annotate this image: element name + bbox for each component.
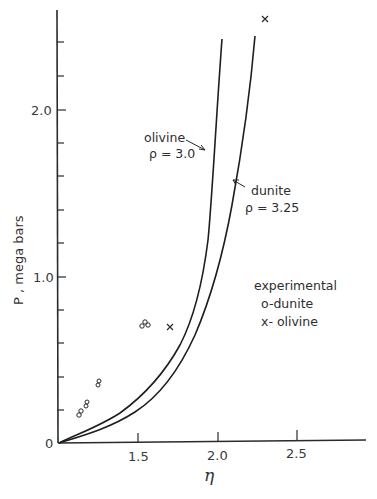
pressure-vs-compression-chart: 0 1.0 2.0 1.5 2.0 2.5 P , mega bars η ol… <box>0 0 377 499</box>
olivine-curve <box>59 39 222 443</box>
x-axis <box>58 440 366 443</box>
y-tick-label-2-0: 2.0 <box>31 103 52 118</box>
x-tick-label-2-0: 2.0 <box>207 448 228 463</box>
dunite-curve <box>59 36 255 443</box>
dunite-rho-label: ρ = 3.25 <box>245 200 299 215</box>
y-axis <box>57 10 58 443</box>
olivine-annotation: olivine ρ = 3.0 <box>144 130 205 161</box>
olivine-rho-label: ρ = 3.0 <box>149 146 195 161</box>
y-axis-title: P , mega bars <box>11 215 26 305</box>
legend-entry-olivine: x- olivine <box>261 314 318 329</box>
x-axis-title: η <box>204 465 215 485</box>
dunite-annotation: dunite ρ = 3.25 <box>233 180 299 215</box>
x-tick-label-1-5: 1.5 <box>128 449 149 464</box>
y-tick-label-1-0: 1.0 <box>33 270 54 285</box>
y-tick-label-0: 0 <box>45 436 53 451</box>
legend-title: experimental <box>254 278 337 293</box>
legend-entry-dunite: o-dunite <box>261 296 314 311</box>
legend: experimental o-dunite x- olivine <box>254 278 337 329</box>
dunite-data-points <box>77 320 150 417</box>
x-tick-label-2-5: 2.5 <box>286 446 307 461</box>
dunite-label: dunite <box>251 183 291 198</box>
olivine-label: olivine <box>144 130 185 145</box>
